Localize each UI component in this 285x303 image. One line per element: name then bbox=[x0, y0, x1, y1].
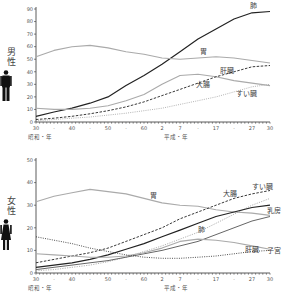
x-era-label-heisei: 平成・年 bbox=[164, 284, 188, 292]
x-tick-label: 30 bbox=[33, 125, 39, 131]
y-tick-label: 10 bbox=[27, 247, 33, 253]
male-line-chart: 010203040506070809030·40·50·6027·17·2730… bbox=[0, 0, 285, 150]
x-era-label-showa: 昭和・年 bbox=[28, 133, 52, 141]
y-tick-label: 30 bbox=[27, 202, 33, 208]
x-tick-label: 60 bbox=[141, 276, 147, 282]
y-tick-label: 0 bbox=[30, 119, 33, 125]
series-label: 子宮 bbox=[267, 246, 281, 255]
female-chart-panel: 女性 0102030405030·40·50·6027·17·2730昭和・年平… bbox=[0, 150, 285, 303]
series-line-胃 bbox=[36, 45, 270, 63]
x-tick-label: · bbox=[53, 276, 55, 282]
male-chart-panel: 男性 010203040506070809030·40·50·6027·17·2… bbox=[0, 0, 285, 150]
x-tick-label: 7 bbox=[178, 276, 181, 282]
y-tick-label: 70 bbox=[27, 31, 33, 37]
x-tick-label: 30 bbox=[267, 125, 273, 131]
y-tick-label: 0 bbox=[30, 270, 33, 276]
series-label: 大腸 bbox=[196, 80, 210, 89]
x-tick-label: 40 bbox=[69, 276, 75, 282]
series-label: 胃 bbox=[200, 48, 207, 56]
y-tick-label: 60 bbox=[27, 43, 33, 49]
female-line-chart: 0102030405030·40·50·6027·17·2730昭和・年平成・年… bbox=[0, 150, 285, 303]
y-tick-label: 20 bbox=[27, 94, 33, 100]
series-label: すい臓 bbox=[236, 89, 257, 98]
y-tick-label: 40 bbox=[27, 69, 33, 75]
y-tick-label: 50 bbox=[27, 157, 33, 163]
x-tick-label: · bbox=[89, 125, 91, 131]
y-tick-label: 30 bbox=[27, 81, 33, 87]
x-tick-label: 40 bbox=[69, 125, 75, 131]
x-tick-label: 30 bbox=[267, 276, 273, 282]
series-label: 肺 bbox=[250, 2, 257, 10]
x-tick-label: 50 bbox=[105, 276, 111, 282]
x-era-label-showa: 昭和・年 bbox=[28, 284, 52, 292]
x-era-label-heisei: 平成・年 bbox=[164, 133, 188, 141]
series-line-肺 bbox=[36, 12, 270, 117]
x-tick-label: 2 bbox=[160, 125, 163, 131]
series-line-すい臓 bbox=[36, 198, 270, 270]
x-tick-label: 17 bbox=[213, 125, 219, 131]
x-tick-label: · bbox=[53, 125, 55, 131]
x-tick-label: 17 bbox=[213, 276, 219, 282]
x-tick-label: · bbox=[233, 276, 235, 282]
y-tick-label: 80 bbox=[27, 18, 33, 24]
series-label: 肝臓 bbox=[245, 245, 259, 254]
series-line-肺 bbox=[36, 205, 270, 267]
series-label: すい臓 bbox=[252, 182, 273, 191]
series-label: 大腸 bbox=[223, 189, 237, 198]
x-tick-label: · bbox=[125, 125, 127, 131]
series-label: 肺 bbox=[198, 226, 205, 234]
series-label: 胃 bbox=[150, 192, 157, 200]
y-tick-label: 40 bbox=[27, 179, 33, 185]
series-label: 乳房 bbox=[267, 206, 281, 215]
x-tick-label: 30 bbox=[33, 276, 39, 282]
series-line-大腸 bbox=[36, 66, 270, 120]
x-tick-label: 2 bbox=[160, 276, 163, 282]
y-tick-label: 90 bbox=[27, 6, 33, 12]
x-tick-label: 27 bbox=[249, 276, 255, 282]
y-tick-label: 20 bbox=[27, 225, 33, 231]
x-tick-label: · bbox=[197, 276, 199, 282]
y-tick-label: 10 bbox=[27, 106, 33, 112]
series-line-肝臓 bbox=[36, 74, 270, 109]
x-tick-label: 60 bbox=[141, 125, 147, 131]
x-tick-label: 27 bbox=[249, 125, 255, 131]
x-tick-label: · bbox=[197, 125, 199, 131]
series-line-肝臓 bbox=[36, 239, 270, 257]
x-tick-label: · bbox=[233, 125, 235, 131]
x-tick-label: · bbox=[89, 276, 91, 282]
x-tick-label: · bbox=[125, 276, 127, 282]
y-tick-label: 50 bbox=[27, 56, 33, 62]
x-tick-label: 50 bbox=[105, 125, 111, 131]
x-tick-label: 7 bbox=[178, 125, 181, 131]
